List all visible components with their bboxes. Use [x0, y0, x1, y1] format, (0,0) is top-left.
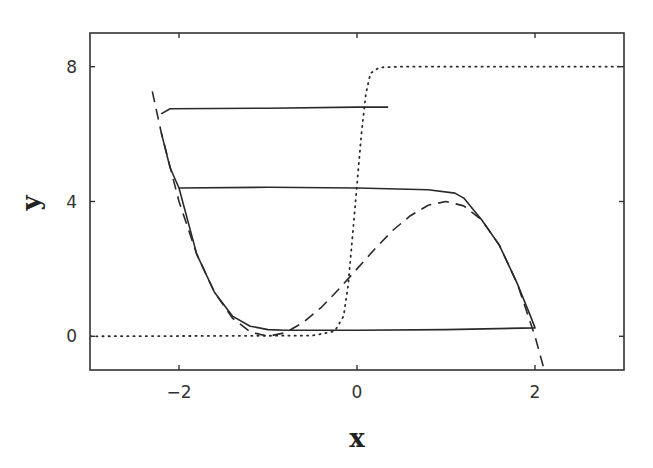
plot-border [90, 33, 624, 370]
x-axis-label: x [349, 423, 365, 453]
series-solid-line [161, 107, 388, 114]
y-axis-label: y [16, 195, 46, 212]
x-tick-label: −2 [166, 382, 191, 402]
series-layer [90, 67, 624, 406]
chart: −202048 x y [0, 0, 653, 468]
series-solid-line [161, 132, 535, 330]
ticks-layer: −202048 [66, 33, 624, 402]
plot-frame [90, 33, 624, 370]
y-tick-label: 8 [66, 57, 77, 77]
x-tick-label: 2 [530, 382, 541, 402]
x-tick-label: 0 [352, 382, 363, 402]
y-tick-label: 0 [66, 326, 77, 346]
series-dashed-line [152, 91, 553, 405]
y-tick-label: 4 [66, 192, 77, 212]
